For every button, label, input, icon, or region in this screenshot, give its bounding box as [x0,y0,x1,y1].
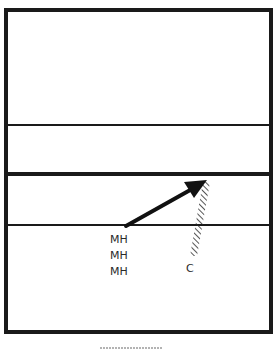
court-border [6,10,271,332]
player-label-mh-3: MH [110,265,128,278]
court-diagram: MH MH MH C [0,0,279,350]
player-label-c: C [186,262,194,275]
player-label-mh-2: MH [110,249,128,262]
player-label-mh-1: MH [110,233,128,246]
